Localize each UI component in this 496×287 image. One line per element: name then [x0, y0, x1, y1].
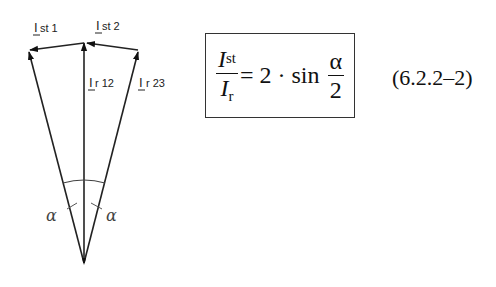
lhs-den-subscript: r	[228, 88, 233, 104]
label-ir12-main: I	[89, 75, 93, 90]
angle-label-left: α	[46, 206, 57, 225]
label-ist2-main: I	[96, 18, 100, 33]
coefficient: 2	[259, 62, 271, 89]
label-ir12-sub: r 12	[95, 77, 114, 89]
lhs-num-symbol: I	[218, 46, 226, 72]
lhs-denominator: Ir	[218, 74, 235, 105]
multiply-dot: ·	[277, 62, 285, 89]
rotor-vector-left	[29, 52, 84, 263]
label-ir23-main: I	[139, 75, 143, 90]
lhs-fraction: Ist Ir	[216, 46, 238, 105]
equation-number: (6.2.2–2)	[392, 65, 473, 91]
phasor-diagram: α α I st 1 I st 2 I r 12 I r 23	[0, 0, 200, 287]
equation: Ist Ir = 2 · sin α 2	[206, 34, 354, 117]
label-ist1-sub: st 1	[40, 22, 58, 34]
stator-vector-st1	[30, 43, 84, 50]
angle-label-right: α	[106, 206, 117, 225]
label-ist2-sub: st 2	[102, 20, 120, 32]
equals-sign: =	[240, 62, 254, 89]
lhs-num-subscript: st	[226, 50, 236, 66]
label-ist2: I st 2	[95, 18, 120, 33]
rhs-numerator: α	[328, 48, 345, 75]
label-ir12: I r 12	[88, 75, 114, 90]
rhs-fraction: α 2	[328, 48, 345, 103]
lhs-numerator: Ist	[216, 46, 238, 73]
apex-point	[82, 258, 86, 265]
label-ir23: I r 23	[138, 75, 165, 90]
label-ist1-main: I	[34, 20, 38, 35]
rhs-denominator: 2	[328, 76, 344, 103]
equation-box: Ist Ir = 2 · sin α 2	[205, 33, 355, 118]
stator-vector-st2	[87, 43, 138, 50]
label-ir23-sub: r 23	[146, 77, 165, 89]
angle-tick-right	[91, 203, 102, 209]
sin-function: sin	[291, 62, 319, 89]
label-ist1: I st 1	[33, 20, 58, 35]
